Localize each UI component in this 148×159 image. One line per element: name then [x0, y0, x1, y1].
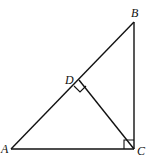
label-c: C — [137, 144, 146, 158]
label-b: B — [131, 6, 139, 20]
triangle-diagram: A B C D — [0, 0, 148, 159]
label-a: A — [0, 142, 9, 156]
label-d: D — [64, 73, 74, 87]
segment-cd — [79, 80, 134, 149]
